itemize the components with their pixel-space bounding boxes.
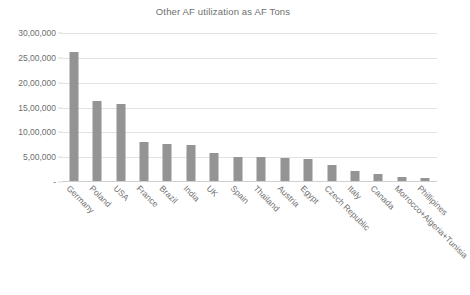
bar[interactable] xyxy=(69,52,78,182)
x-axis-category-label: Egypt xyxy=(299,184,320,205)
bar[interactable] xyxy=(163,144,172,182)
plot-area xyxy=(62,33,437,182)
y-axis-tick-label: 25,00,000 xyxy=(18,53,56,63)
bar-slot[interactable] xyxy=(250,33,273,182)
y-axis-tick-mark xyxy=(58,182,62,183)
bar-slot[interactable] xyxy=(320,33,343,182)
y-axis-tick-mark xyxy=(58,132,62,133)
bar[interactable] xyxy=(327,165,336,182)
bar[interactable] xyxy=(93,101,102,182)
y-axis-tick-mark xyxy=(58,82,62,83)
y-axis-tick-mark xyxy=(58,57,62,58)
y-axis-tick-label: 10,00,000 xyxy=(18,127,56,137)
x-axis-category-label: USA xyxy=(112,184,130,202)
bar-slot[interactable] xyxy=(390,33,413,182)
bar[interactable] xyxy=(304,159,313,182)
x-axis-category-label: Brazil xyxy=(158,184,179,205)
bar[interactable] xyxy=(210,153,219,182)
bar-slot[interactable] xyxy=(226,33,249,182)
bar-slot[interactable] xyxy=(156,33,179,182)
bar-slot[interactable] xyxy=(414,33,437,182)
bar[interactable] xyxy=(257,157,266,182)
x-axis-category-label: Italy xyxy=(346,184,363,201)
bar[interactable] xyxy=(116,104,125,182)
y-axis-tick-label: 5,00,000 xyxy=(23,152,56,162)
y-axis-tick-mark xyxy=(58,33,62,34)
bar[interactable] xyxy=(233,157,242,182)
bars-layer xyxy=(62,33,437,182)
y-axis-tick-label: 30,00,000 xyxy=(18,28,56,38)
bar-slot[interactable] xyxy=(203,33,226,182)
bar-slot[interactable] xyxy=(296,33,319,182)
y-axis-tick-label: - xyxy=(53,177,56,187)
y-axis: 30,00,00025,00,00020,00,00015,00,00010,0… xyxy=(0,33,56,182)
x-axis-category-label: Spain xyxy=(229,184,250,205)
bar-slot[interactable] xyxy=(343,33,366,182)
y-axis-tick-label: 20,00,000 xyxy=(18,78,56,88)
bar-slot[interactable] xyxy=(109,33,132,182)
bar-slot[interactable] xyxy=(273,33,296,182)
x-axis-category-label: Canada xyxy=(369,184,396,211)
bar-slot[interactable] xyxy=(62,33,85,182)
x-axis-category-label: India xyxy=(182,184,201,203)
bar[interactable] xyxy=(140,142,149,182)
bar-slot[interactable] xyxy=(85,33,108,182)
bar-slot[interactable] xyxy=(367,33,390,182)
x-axis-category-label: France xyxy=(135,184,160,209)
x-axis-labels: GermanyPolandUSAFranceBrazilIndiaUKSpain… xyxy=(62,184,437,294)
bar[interactable] xyxy=(186,145,195,182)
bar-slot[interactable] xyxy=(132,33,155,182)
bar-slot[interactable] xyxy=(179,33,202,182)
bar[interactable] xyxy=(280,158,289,182)
y-axis-tick-label: 15,00,000 xyxy=(18,103,56,113)
y-axis-tick-mark xyxy=(58,107,62,108)
y-axis-tick-mark xyxy=(58,157,62,158)
chart-title: Other AF utilization as AF Tons xyxy=(0,6,446,17)
x-axis-category-label: UK xyxy=(205,184,219,198)
